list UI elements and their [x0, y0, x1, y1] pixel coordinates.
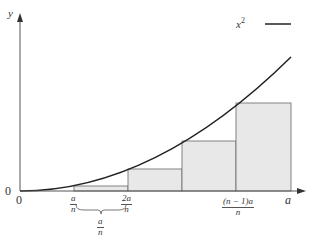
diagram-canvas	[0, 0, 312, 242]
brace-denominator: n	[98, 228, 103, 238]
tick-2a-over-n: 2a n	[121, 194, 132, 215]
brace-label: a n	[97, 217, 104, 238]
brace-icon	[76, 205, 126, 214]
tick-denominator: n	[71, 205, 76, 215]
tick-denominator: n	[124, 205, 129, 215]
rectangle-2	[128, 169, 182, 191]
y-origin-label: 0	[5, 185, 11, 197]
rectangle-1	[74, 186, 128, 191]
rectangle-4	[236, 103, 291, 191]
x-axis-label: a	[285, 194, 291, 206]
legend-superscript: 2	[241, 16, 245, 25]
y-axis-label: y	[8, 8, 13, 19]
x-origin-label: 0	[16, 194, 22, 206]
x-axis-arrow-icon	[297, 188, 306, 194]
legend-label: x2	[236, 17, 245, 30]
rectangle-3	[182, 141, 236, 191]
tick-a-over-n: a n	[70, 194, 77, 215]
y-axis-arrow-icon	[17, 13, 23, 22]
tick-n-minus-1-a-over-n: (n − 1)a n	[222, 197, 254, 218]
tick-denominator: n	[236, 208, 241, 218]
